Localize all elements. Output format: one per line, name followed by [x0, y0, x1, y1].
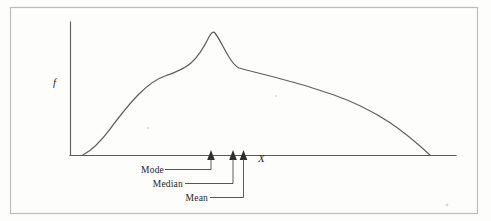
distribution-curve: [83, 32, 430, 155]
annotation-mode: Mode: [141, 150, 215, 175]
scan-speck: [446, 204, 449, 207]
annotation-mean: Mean: [186, 150, 248, 203]
figure-page: f X Mode Median Mean: [0, 0, 491, 221]
mean-label: Mean: [186, 193, 208, 203]
scan-speck: [147, 127, 149, 129]
y-axis-label: f: [53, 76, 58, 88]
skewed-distribution-figure: f X Mode Median Mean: [0, 0, 491, 221]
mode-leader-line: [192, 167, 211, 170]
scan-speck: [275, 95, 277, 97]
page-border-frame: [11, 8, 478, 214]
mode-label: Mode: [141, 165, 164, 175]
median-label: Median: [153, 179, 183, 189]
x-axis-label: X: [257, 152, 266, 164]
median-leader-line: [219, 181, 233, 184]
mean-leader-line: [232, 195, 244, 198]
